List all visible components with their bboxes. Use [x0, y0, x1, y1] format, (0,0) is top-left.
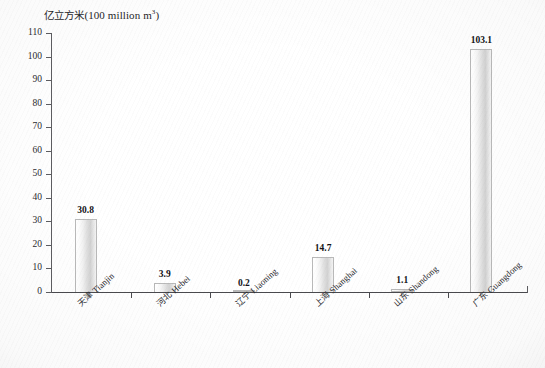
bar-value-hebei: 3.9 [143, 269, 187, 279]
y-tick-100 [46, 57, 52, 58]
x-tick-boundary-4 [369, 292, 370, 298]
y-tick-label-60: 60 [14, 145, 42, 155]
y-tick-label-90: 90 [14, 74, 42, 84]
y-tick-label-50: 50 [14, 168, 42, 178]
y-tick-10 [46, 268, 52, 269]
x-tick-boundary-1 [131, 292, 132, 298]
y-axis-unit-chinese: 亿立方米 [44, 9, 84, 21]
y-tick-label-10: 10 [14, 262, 42, 272]
y-tick-110 [46, 33, 52, 34]
y-axis-line [51, 33, 52, 293]
y-axis-tick-labels: 1101009080706050403020100 [8, 0, 42, 368]
y-axis-unit-english: (100 million m [84, 9, 151, 21]
y-tick-70 [46, 127, 52, 128]
bar-value-guangdong: 103.1 [459, 35, 503, 45]
y-tick-80 [46, 104, 52, 105]
y-tick-50 [46, 174, 52, 175]
bar-value-shandong: 1.1 [380, 275, 424, 285]
y-tick-label-30: 30 [14, 215, 42, 225]
bar-guangdong [470, 49, 492, 292]
x-axis-end-cap [527, 286, 528, 293]
y-tick-60 [46, 151, 52, 152]
y-tick-40 [46, 198, 52, 199]
bar-value-shanghai: 14.7 [301, 243, 345, 253]
y-axis-unit-title: 亿立方米(100 million m3) [44, 7, 159, 22]
bar-chart-figure: 亿立方米(100 million m3) 1101009080706050403… [0, 0, 545, 368]
y-tick-90 [46, 80, 52, 81]
y-tick-label-0: 0 [14, 286, 42, 296]
y-tick-label-100: 100 [14, 51, 42, 61]
y-axis-unit-paren-close: ) [155, 9, 159, 21]
y-tick-30 [46, 221, 52, 222]
x-tick-boundary-3 [290, 292, 291, 298]
y-tick-label-40: 40 [14, 192, 42, 202]
y-tick-label-70: 70 [14, 121, 42, 131]
y-tick-0 [46, 292, 52, 293]
x-tick-boundary-2 [210, 292, 211, 298]
y-tick-label-20: 20 [14, 239, 42, 249]
plot-area [52, 33, 527, 292]
x-tick-boundary-5 [448, 292, 449, 298]
y-tick-label-80: 80 [14, 98, 42, 108]
y-tick-label-110: 110 [14, 27, 42, 37]
y-tick-20 [46, 245, 52, 246]
bar-value-tianjin: 30.8 [64, 205, 108, 215]
bar-value-liaoning: 0.2 [222, 278, 266, 288]
